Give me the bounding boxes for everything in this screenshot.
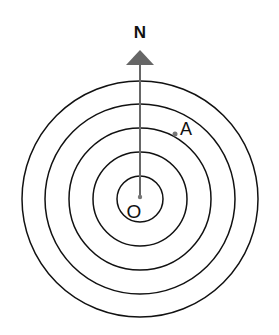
origin-point bbox=[138, 195, 142, 199]
north-arrowhead-icon bbox=[126, 50, 154, 65]
north-label: N bbox=[134, 23, 146, 42]
point-a bbox=[173, 132, 178, 137]
north-arrow bbox=[126, 50, 154, 197]
point-a-label: A bbox=[180, 119, 192, 139]
origin-label: O bbox=[127, 201, 142, 222]
concentric-circles-diagram: N O A bbox=[0, 0, 279, 335]
